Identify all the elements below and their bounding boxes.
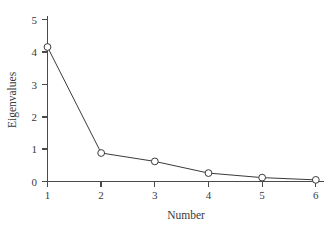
y-tick-label-4: 4 bbox=[32, 46, 38, 58]
scree-plot-chart: 5 4 3 2 1 0 1 2 3 4 5 6 Number bbox=[0, 0, 332, 250]
y-axis-title: Eigenvalues bbox=[6, 71, 19, 128]
x-tick-label-4: 4 bbox=[206, 189, 212, 201]
data-point-marker bbox=[44, 44, 51, 51]
scree-plot-screenshot: 5 4 3 2 1 0 1 2 3 4 5 6 Number bbox=[0, 0, 332, 250]
y-tick-label-5: 5 bbox=[32, 14, 38, 26]
y-tick-label-0: 0 bbox=[32, 176, 38, 188]
data-point-marker bbox=[259, 174, 266, 181]
x-axis-title: Number bbox=[167, 209, 205, 221]
x-tick-label-2: 2 bbox=[98, 189, 104, 201]
data-point-marker bbox=[205, 170, 212, 177]
y-tick-label-3: 3 bbox=[32, 79, 38, 91]
eigenvalue-series-markers bbox=[44, 44, 319, 184]
x-tick-label-6: 6 bbox=[313, 189, 319, 201]
x-axis-ticks bbox=[48, 182, 316, 188]
x-tick-label-3: 3 bbox=[152, 189, 158, 201]
y-axis-tick-labels: 5 4 3 2 1 0 bbox=[32, 14, 38, 188]
data-point-marker bbox=[312, 176, 319, 183]
eigenvalue-series-line bbox=[48, 47, 316, 180]
x-tick-label-1: 1 bbox=[45, 189, 51, 201]
data-point-marker bbox=[151, 158, 158, 165]
y-tick-label-2: 2 bbox=[32, 111, 38, 123]
x-tick-label-5: 5 bbox=[259, 189, 265, 201]
x-axis-tick-labels: 1 2 3 4 5 6 bbox=[45, 189, 319, 201]
y-tick-label-1: 1 bbox=[32, 143, 38, 155]
data-point-marker bbox=[98, 150, 105, 157]
